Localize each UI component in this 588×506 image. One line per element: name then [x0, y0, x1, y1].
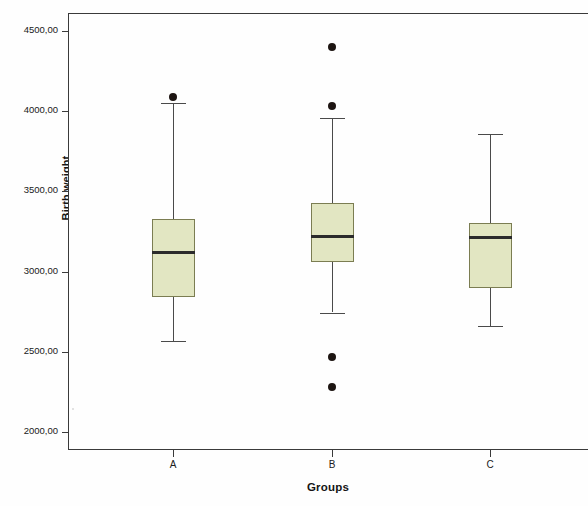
outlier-point	[328, 353, 336, 361]
whisker-lower	[173, 297, 174, 340]
box-iqr-rect	[311, 203, 354, 262]
x-tick-mark	[490, 450, 491, 457]
y-tick-label: 4500,00	[2, 25, 58, 35]
median-line	[469, 236, 512, 239]
box-iqr-rect	[152, 219, 195, 298]
y-tick-label: 2500,00	[2, 346, 58, 356]
whisker-lower	[332, 262, 333, 313]
y-tick-label: 2000,00	[2, 426, 58, 436]
box-iqr-rect	[469, 223, 512, 287]
whisker-cap-upper	[478, 134, 503, 135]
outlier-point	[328, 43, 336, 51]
whisker-cap-upper	[161, 103, 186, 104]
whisker-upper	[173, 103, 174, 218]
x-tick-label-c: C	[470, 459, 510, 470]
x-tick-mark	[173, 450, 174, 457]
whisker-cap-lower	[320, 313, 345, 314]
whisker-cap-lower	[478, 326, 503, 327]
whisker-upper	[490, 134, 491, 224]
whisker-cap-lower	[161, 341, 186, 342]
median-line	[311, 235, 354, 238]
x-axis-title: Groups	[68, 481, 588, 493]
y-tick-label: 3500,00	[2, 185, 58, 195]
whisker-upper	[332, 118, 333, 203]
y-tick-label: 4000,00	[2, 105, 58, 115]
outlier-point	[169, 93, 177, 101]
y-tick-label: 3000,00	[2, 266, 58, 276]
x-tick-label-a: A	[153, 459, 193, 470]
whisker-cap-upper	[320, 118, 345, 119]
median-line	[152, 251, 195, 254]
x-tick-mark	[332, 450, 333, 457]
whisker-lower	[490, 288, 491, 326]
scan-speck	[72, 408, 74, 410]
boxplot-chart: Birth weight 2000,002500,003000,003500,0…	[0, 0, 588, 506]
x-tick-label-b: B	[312, 459, 352, 470]
